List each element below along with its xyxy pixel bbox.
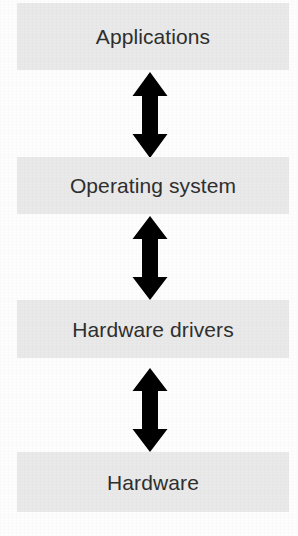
double-headed-vertical-arrow-icon [132, 216, 168, 300]
layer-label-hardware-drivers: Hardware drivers [72, 319, 233, 340]
layered-architecture-diagram: Applications Operating system Hardware d… [0, 0, 298, 536]
double-headed-vertical-arrow-icon [132, 368, 168, 452]
layer-box-hardware: Hardware [17, 452, 289, 512]
double-headed-vertical-arrow-icon [132, 72, 168, 158]
layer-label-applications: Applications [96, 26, 210, 47]
layer-box-applications: Applications [17, 3, 289, 70]
layer-box-hardware-drivers: Hardware drivers [17, 300, 289, 358]
layer-label-operating-system: Operating system [70, 175, 236, 196]
layer-box-operating-system: Operating system [17, 157, 289, 214]
layer-label-hardware: Hardware [107, 472, 199, 493]
